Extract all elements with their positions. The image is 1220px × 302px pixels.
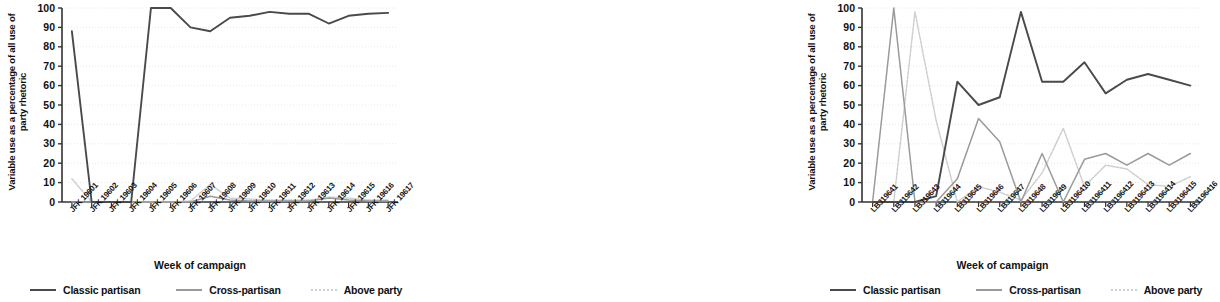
legend-swatch-cross_partisan [176, 289, 202, 291]
legend-label-above_party: Above party [344, 284, 402, 296]
legend-item-classic_partisan: Classic partisan [830, 284, 940, 296]
y-tick-label: 90 [43, 21, 55, 33]
legend-jfk: Classic partisanCross-partisanAbove part… [30, 281, 405, 299]
y-tick-label: 30 [843, 137, 855, 149]
y-tick-label: 20 [843, 157, 855, 169]
y-tick-label: 10 [43, 176, 55, 188]
legend-swatch-above_party [1111, 289, 1137, 291]
y-tick-label: 80 [43, 40, 55, 52]
y-tick-label: 60 [843, 79, 855, 91]
legend-item-cross_partisan: Cross-partisan [976, 284, 1080, 296]
y-tick-label: 60 [43, 79, 55, 91]
chart-panel-jfk: Variable use as a percentage of all use … [0, 0, 400, 302]
legend-label-classic_partisan: Classic partisan [63, 284, 140, 296]
x-tick-labels-lbj: LBJ19641LBJ19642LBJ19643LBJ19644LBJ19645… [800, 206, 1205, 266]
y-tick-label: 50 [43, 99, 55, 111]
y-axis-title-jfk: Variable use as a percentage of all use … [6, 2, 28, 202]
legend-swatch-cross_partisan [976, 289, 1002, 291]
y-tick-label: 50 [843, 99, 855, 111]
legend-swatch-classic_partisan [30, 289, 56, 291]
y-tick-label: 80 [843, 40, 855, 52]
x-tick-labels-jfk: JFK 19601JFK 19602JFK 19603JFK 19604JFK … [0, 206, 400, 266]
legend-swatch-above_party [311, 289, 337, 291]
plot-area-lbj: 0102030405060708090100 [828, 0, 1203, 210]
y-axis-title-lbj: Variable use as a percentage of all use … [806, 2, 828, 202]
legend-lbj: Classic partisanCross-partisanAbove part… [830, 281, 1205, 299]
y-tick-label: 20 [43, 157, 55, 169]
y-tick-label: 70 [43, 60, 55, 72]
y-tick-label: 90 [843, 21, 855, 33]
legend-item-above_party: Above party [1111, 284, 1202, 296]
plot-area-jfk: 0102030405060708090100 [28, 0, 400, 210]
x-axis-title-lbj: Week of campaign [920, 259, 1085, 271]
legend-item-classic_partisan: Classic partisan [30, 284, 140, 296]
y-tick-label: 40 [843, 118, 855, 130]
y-tick-label: 40 [43, 118, 55, 130]
legend-label-cross_partisan: Cross-partisan [1009, 284, 1080, 296]
legend-item-cross_partisan: Cross-partisan [176, 284, 280, 296]
series-line-above_party [873, 12, 1191, 202]
y-tick-label: 100 [837, 2, 855, 14]
y-tick-label: 100 [37, 2, 55, 14]
legend-item-above_party: Above party [311, 284, 402, 296]
y-tick-label: 70 [843, 60, 855, 72]
legend-label-classic_partisan: Classic partisan [863, 284, 940, 296]
y-tick-label: 10 [843, 176, 855, 188]
y-tick-label: 30 [43, 137, 55, 149]
legend-label-cross_partisan: Cross-partisan [209, 284, 280, 296]
legend-swatch-classic_partisan [830, 289, 856, 291]
legend-label-above_party: Above party [1144, 284, 1202, 296]
x-axis-title-jfk: Week of campaign [120, 259, 280, 271]
chart-panel-lbj: Variable use as a percentage of all use … [400, 0, 805, 302]
